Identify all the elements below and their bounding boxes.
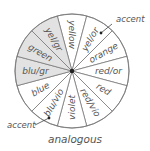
accent-pointer-dot xyxy=(100,32,103,35)
segment-label-blu-gr: blu/gr xyxy=(22,66,50,76)
color-wheel: yellowyel/ororangered/orredred/vioviolet… xyxy=(0,0,150,151)
accent-label: accent xyxy=(7,120,36,130)
accent-pointer-dot xyxy=(48,117,51,120)
accent-label: accent xyxy=(116,14,145,24)
segment-label-yellow: yellow xyxy=(67,19,77,49)
segment-label-violet: violet xyxy=(67,95,77,120)
diagram-caption: analogous xyxy=(0,133,150,145)
wheel-hub-dot xyxy=(70,69,74,73)
segment-label-red-or: red/or xyxy=(95,66,123,76)
